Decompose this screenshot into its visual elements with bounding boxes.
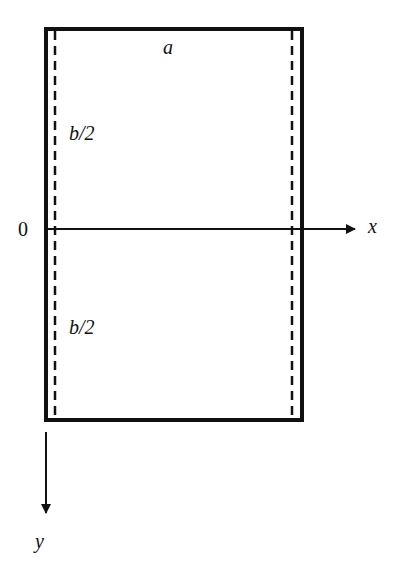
width-label: a	[163, 36, 173, 58]
origin-label: 0	[18, 218, 28, 240]
plate-outline	[46, 29, 302, 420]
plate-diagram: a b/2 b/2 0 x y	[0, 0, 402, 579]
x-axis-label: x	[367, 215, 377, 237]
upper-half-label: b/2	[69, 122, 95, 144]
y-axis-label: y	[33, 530, 44, 553]
lower-half-label: b/2	[69, 316, 95, 338]
